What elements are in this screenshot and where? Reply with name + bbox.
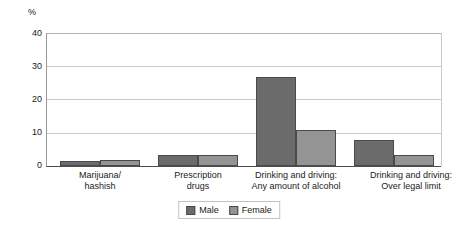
bar-male-drinking-any-amount [256, 77, 296, 166]
y-tick-0: 0 [2, 161, 42, 170]
y-tick-10: 10 [2, 128, 42, 137]
legend-label-male: Male [199, 205, 219, 215]
legend-swatch-male-icon [186, 206, 195, 215]
bar-chart: % 40 30 20 10 0 Marijuana/ hashish Pr [0, 0, 458, 232]
y-axis-tick-labels: 40 30 20 10 0 [0, 33, 42, 166]
bar-female-prescription-drugs [198, 155, 238, 166]
bar-female-drinking-any-amount [296, 130, 336, 166]
y-tick-30: 30 [2, 62, 42, 71]
x-label-line-2: Over legal limit [341, 181, 458, 192]
y-tick-20: 20 [2, 95, 42, 104]
x-axis-category-labels: Marijuana/ hashish Prescription drugs Dr… [46, 170, 440, 198]
legend-swatch-female-icon [229, 206, 238, 215]
y-tick-40: 40 [2, 29, 42, 38]
bar-female-marijuana-hashish [100, 160, 140, 166]
x-label-line-1: Drinking and driving: [341, 170, 458, 181]
chart-legend: Male Female [178, 201, 280, 219]
bar-male-prescription-drugs [158, 155, 198, 166]
bar-female-drinking-over-limit [394, 155, 434, 166]
legend-item-male[interactable]: Male [186, 205, 219, 215]
x-label-drinking-over-limit: Drinking and driving: Over legal limit [341, 170, 458, 192]
bar-male-marijuana-hashish [60, 161, 100, 166]
legend-item-female[interactable]: Female [229, 205, 272, 215]
bar-male-drinking-over-limit [354, 140, 394, 166]
plot-right-edge [441, 33, 442, 166]
y-axis-unit-label: % [28, 7, 36, 17]
legend-label-female: Female [242, 205, 272, 215]
bars-layer [46, 33, 440, 166]
